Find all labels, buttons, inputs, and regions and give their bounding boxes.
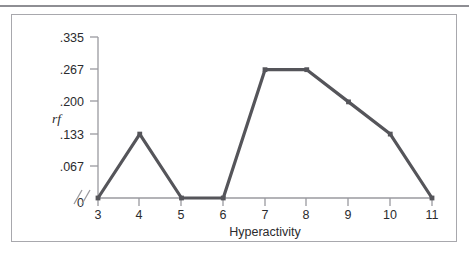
line-chart: .335 .267 .200 .133 .067 0 rf 3 4 5 6 7 … bbox=[12, 15, 456, 241]
series-markers-rf bbox=[96, 67, 435, 200]
figure-frame: .335 .267 .200 .133 .067 0 rf 3 4 5 6 7 … bbox=[11, 14, 457, 242]
data-point-6 bbox=[221, 196, 226, 201]
y-tick-label-067: .067 bbox=[60, 160, 84, 174]
data-point-7 bbox=[263, 67, 268, 72]
y-axis-title: rf bbox=[52, 111, 63, 126]
top-horizontal-rule bbox=[0, 5, 469, 7]
x-tick-label-7: 7 bbox=[262, 208, 269, 222]
data-point-10 bbox=[388, 132, 393, 137]
data-point-3 bbox=[96, 196, 101, 201]
x-tick-label-6: 6 bbox=[220, 208, 227, 222]
x-tick-label-8: 8 bbox=[303, 208, 310, 222]
data-point-5 bbox=[179, 196, 184, 201]
y-tick-label-267: .267 bbox=[60, 63, 84, 77]
x-axis-title: Hyperactivity bbox=[229, 225, 301, 239]
series-line-rf bbox=[98, 70, 432, 198]
x-tick-label-3: 3 bbox=[95, 208, 102, 222]
data-point-11 bbox=[430, 196, 435, 201]
x-tick-label-10: 10 bbox=[383, 208, 397, 222]
data-point-8 bbox=[304, 67, 309, 72]
x-tick-label-11: 11 bbox=[426, 208, 439, 222]
y-tick-label-335: .335 bbox=[60, 31, 84, 45]
data-point-9 bbox=[346, 99, 351, 104]
data-point-4 bbox=[137, 132, 142, 137]
x-tick-label-4: 4 bbox=[136, 208, 143, 222]
y-tick-label-200: .200 bbox=[60, 95, 84, 109]
x-tick-label-5: 5 bbox=[178, 208, 185, 222]
y-tick-label-133: .133 bbox=[60, 128, 84, 142]
x-tick-label-9: 9 bbox=[345, 208, 352, 222]
